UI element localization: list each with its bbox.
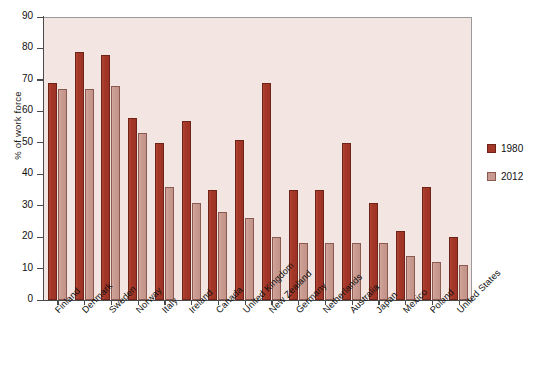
bar-2012 [85, 89, 94, 300]
y-tick-mark [37, 205, 43, 206]
y-tick-mark [37, 17, 43, 18]
y-tick-label: 80 [0, 41, 33, 52]
bar-1980 [262, 83, 271, 300]
bars-layer [44, 17, 472, 300]
bar-1980 [155, 143, 164, 300]
bar-chart: % of work force 0102030405060708090 Finl… [0, 0, 537, 385]
y-tick-label: 0 [0, 293, 33, 304]
bar-1980 [208, 190, 217, 300]
bar-1980 [396, 231, 405, 300]
y-tick-mark [37, 48, 43, 49]
bar-1980 [342, 143, 351, 300]
y-tick-label: 60 [0, 104, 33, 115]
y-tick-label: 20 [0, 230, 33, 241]
y-tick-mark [37, 300, 43, 301]
bar-1980 [128, 118, 137, 300]
bar-2012 [245, 218, 254, 300]
bar-2012 [192, 203, 201, 300]
bar-1980 [48, 83, 57, 300]
y-tick-mark [37, 268, 43, 269]
bar-1980 [75, 52, 84, 300]
y-tick-mark [37, 111, 43, 112]
legend-label-1980: 1980 [501, 143, 523, 154]
bar-2012 [58, 89, 67, 300]
legend-swatch-1980 [487, 144, 496, 153]
bar-1980 [101, 55, 110, 300]
y-tick-label: 70 [0, 73, 33, 84]
bar-2012 [218, 212, 227, 300]
y-tick-label: 10 [0, 262, 33, 273]
bar-1980 [235, 140, 244, 300]
bar-2012 [111, 86, 120, 300]
legend-label-2012: 2012 [501, 171, 523, 182]
legend-swatch-2012 [487, 172, 496, 181]
bar-2012 [165, 187, 174, 300]
bar-1980 [182, 121, 191, 300]
bar-2012 [379, 243, 388, 300]
y-tick-label: 40 [0, 167, 33, 178]
y-tick-mark [37, 174, 43, 175]
legend-entry-1980[interactable]: 1980 [487, 143, 523, 154]
y-tick-mark [37, 142, 43, 143]
bar-2012 [325, 243, 334, 300]
bar-2012 [138, 133, 147, 300]
y-axis-title: % of work force [12, 71, 23, 181]
y-tick-label: 90 [0, 10, 33, 21]
y-tick-mark [37, 79, 43, 80]
y-tick-label: 30 [0, 199, 33, 210]
y-tick-mark [37, 237, 43, 238]
bar-1980 [422, 187, 431, 300]
y-tick-label: 50 [0, 136, 33, 147]
legend-entry-2012[interactable]: 2012 [487, 171, 523, 182]
bar-2012 [406, 256, 415, 300]
